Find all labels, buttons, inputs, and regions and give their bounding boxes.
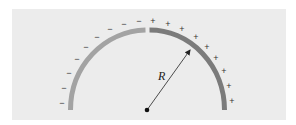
minus-charge-sign: − xyxy=(66,68,71,78)
plus-charge-sign: + xyxy=(193,32,198,42)
negative-arc xyxy=(71,30,146,110)
plus-charge-sign: + xyxy=(150,16,155,26)
plus-charge-sign: + xyxy=(204,42,209,52)
minus-charge-sign: − xyxy=(83,42,88,52)
minus-charge-sign: − xyxy=(61,83,66,93)
radius-label: R xyxy=(157,69,166,83)
center-point xyxy=(145,108,150,113)
plus-charge-sign: + xyxy=(179,24,184,34)
minus-charge-sign: − xyxy=(107,24,112,34)
plus-charge-sign: + xyxy=(226,81,231,91)
plus-charge-sign: + xyxy=(213,53,218,63)
charged-arc-diagram: R −−−−−−−−− +++++++++ xyxy=(0,0,296,125)
radius-arrow xyxy=(147,50,190,110)
minus-charge-sign: − xyxy=(94,32,99,42)
plus-charge-sign: + xyxy=(229,96,234,106)
minus-charge-sign: − xyxy=(121,19,126,29)
plus-charge-sign: + xyxy=(165,19,170,29)
minus-charge-sign: − xyxy=(136,16,141,26)
minus-charge-sign: − xyxy=(74,54,79,64)
minus-charge-sign: − xyxy=(59,98,64,108)
plus-charge-sign: + xyxy=(221,66,226,76)
